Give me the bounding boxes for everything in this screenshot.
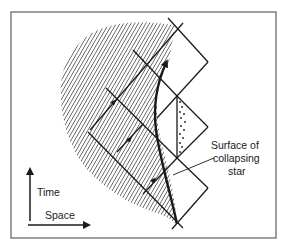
surface-label-line1: Surface of: [211, 139, 259, 151]
time-axis-label: Time: [37, 186, 60, 198]
surface-label-line3: star: [228, 165, 246, 177]
collapsing-star-spacetime-diagram: Surface of collapsing star Time Space: [0, 0, 287, 251]
space-axis-label: Space: [45, 209, 75, 221]
surface-label-line2: collapsing: [213, 152, 260, 164]
